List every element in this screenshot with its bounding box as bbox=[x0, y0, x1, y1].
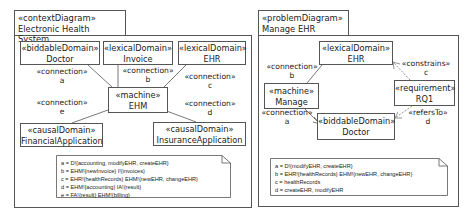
machine-ehm[interactable]: «machine» EHM bbox=[108, 87, 168, 113]
note-line: a = D!{modifyEHR, createEHR} bbox=[275, 162, 443, 170]
domain-doctor-right[interactable]: «biddableDomain» Doctor bbox=[317, 113, 395, 140]
phenomena-note-left: a = D!{accounting, modifyEHR, createEHR}… bbox=[56, 155, 231, 198]
connection-label-a: «connection» a bbox=[30, 68, 94, 85]
domain-name: Doctor bbox=[342, 127, 369, 137]
connection-name: c bbox=[424, 68, 428, 77]
note-line: c = healthRecords bbox=[275, 178, 443, 186]
domain-stereotype: «lexicalDomain» bbox=[179, 43, 247, 53]
connection-label-b: «connection» b bbox=[116, 67, 180, 84]
connection-label-a-right: «connection» a bbox=[255, 109, 319, 126]
domain-name: RQ1 bbox=[416, 94, 433, 104]
domain-stereotype: «machine» bbox=[115, 90, 160, 100]
diagram-stereotype: «contextDiagram» bbox=[18, 13, 96, 23]
domain-stereotype: «biddableDomain» bbox=[318, 116, 395, 126]
domain-name: Invoice bbox=[123, 54, 152, 64]
domain-stereotype: «causalDomain» bbox=[27, 125, 95, 135]
connection-name: c bbox=[208, 81, 212, 90]
context-diagram-header: «contextDiagram» Electronic Health Syste… bbox=[14, 10, 126, 36]
domain-stereotype: «requirement» bbox=[395, 83, 456, 93]
domain-stereotype: «biddableDomain» bbox=[21, 43, 98, 53]
connection-label-b-right: «connection» b bbox=[260, 63, 324, 80]
domain-doctor[interactable]: «biddableDomain» Doctor bbox=[20, 41, 100, 65]
connection-label-c: «connection» c bbox=[178, 73, 242, 90]
domain-name: FinancialApplication bbox=[21, 136, 103, 146]
domain-name: EHM bbox=[129, 101, 147, 111]
domain-name: Manage bbox=[275, 97, 308, 107]
connection-name: d bbox=[426, 117, 431, 126]
refersto-label-d: «refersTo» d bbox=[404, 109, 452, 126]
domain-invoice[interactable]: «lexicalDomain» Invoice bbox=[103, 41, 173, 65]
connection-name: d bbox=[208, 108, 213, 117]
domain-stereotype: «machine» bbox=[269, 86, 314, 96]
phenomena-note-right: a = D!{modifyEHR, createEHR} b = EHR!{he… bbox=[270, 158, 448, 196]
note-line: c = EHR!{healthRecords} EHM!{newEHR, cha… bbox=[61, 175, 226, 183]
diagram-stereotype: «problemDiagram» bbox=[262, 13, 343, 23]
domain-stereotype: «lexicalDomain» bbox=[104, 43, 172, 53]
connection-label-d: «connection» d bbox=[178, 100, 242, 117]
note-line: e = FA!{result} EHM!{billing} bbox=[61, 191, 226, 199]
connection-name: a bbox=[285, 117, 290, 126]
requirement-rq1[interactable]: «requirement» RQ1 bbox=[394, 80, 455, 106]
connection-name: e bbox=[60, 107, 65, 116]
domain-ehr[interactable]: «lexicalDomain» EHR bbox=[178, 41, 246, 65]
domain-stereotype: «causalDomain» bbox=[165, 124, 233, 134]
domain-insurance-application[interactable]: «causalDomain» InsuranceApplication bbox=[153, 122, 246, 146]
connection-name: b bbox=[146, 75, 151, 84]
domain-ehr-right[interactable]: «lexicalDomain» EHR bbox=[319, 41, 393, 65]
diagram-title: Manage EHR bbox=[262, 24, 315, 34]
domain-name: InsuranceApplication bbox=[157, 135, 243, 145]
domain-name: Doctor bbox=[46, 54, 73, 64]
domain-name: EHR bbox=[203, 54, 220, 64]
domain-financial-application[interactable]: «causalDomain» FinancialApplication bbox=[20, 123, 103, 147]
domain-name: EHR bbox=[347, 54, 364, 64]
note-line: a = D!{accounting, modifyEHR, createEHR} bbox=[61, 159, 226, 167]
domain-stereotype: «lexicalDomain» bbox=[322, 43, 390, 53]
connection-name: b bbox=[290, 71, 295, 80]
note-line: b = EHR!{healthRecords} EHM!{newEHR, cha… bbox=[275, 170, 443, 178]
constrains-label-c: «constrains» c bbox=[398, 60, 454, 77]
connection-label-e: «connection» e bbox=[30, 99, 94, 116]
note-line: d = EHM!{accounting} IA!{result} bbox=[61, 183, 226, 191]
problem-diagram-header: «problemDiagram» Manage EHR bbox=[258, 10, 349, 36]
note-line: b = EHM!{newInvoice} I!{invoices} bbox=[61, 167, 226, 175]
machine-manage[interactable]: «machine» Manage bbox=[264, 83, 319, 109]
connection-name: a bbox=[60, 76, 65, 85]
note-line: d = createEHR, modifyEHR bbox=[275, 186, 443, 194]
